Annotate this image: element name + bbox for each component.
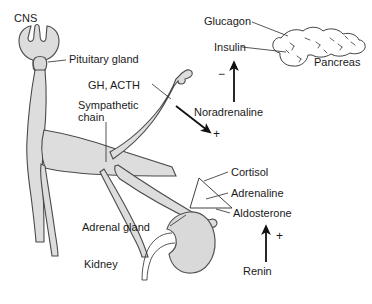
sign-noradrenaline-minus: − [218,67,225,81]
label-adrenaline: Adrenaline [231,187,284,199]
adrenal-gland-organ [190,178,232,208]
label-gh-acth: GH, ACTH [88,79,140,91]
label-glucagon: Glucagon [204,15,251,27]
label-pancreas: Pancreas [314,56,361,68]
endocrine-diagram: CNS Pituitary gland GH, ACTH Sympathetic… [0,0,372,304]
label-aldosterone: Aldosterone [233,207,292,219]
label-kidney: Kidney [84,258,118,270]
label-insulin: Insulin [214,41,246,53]
label-sympathetic-chain-line1: Sympathetic [78,99,139,111]
label-adrenal-gland: Adrenal gland [82,221,150,233]
sign-sympathetic-plus: + [213,127,220,141]
label-sympathetic-chain-line2: chain [78,111,104,123]
label-cortisol: Cortisol [231,166,268,178]
diagram-canvas: CNS Pituitary gland GH, ACTH Sympathetic… [0,0,372,304]
label-cns: CNS [14,12,37,24]
kidney-organ [142,212,215,280]
label-renin: Renin [243,265,272,277]
sign-renin-plus: + [276,229,283,243]
label-noradrenaline: Noradrenaline [194,106,263,118]
label-pituitary-gland: Pituitary gland [69,53,139,65]
